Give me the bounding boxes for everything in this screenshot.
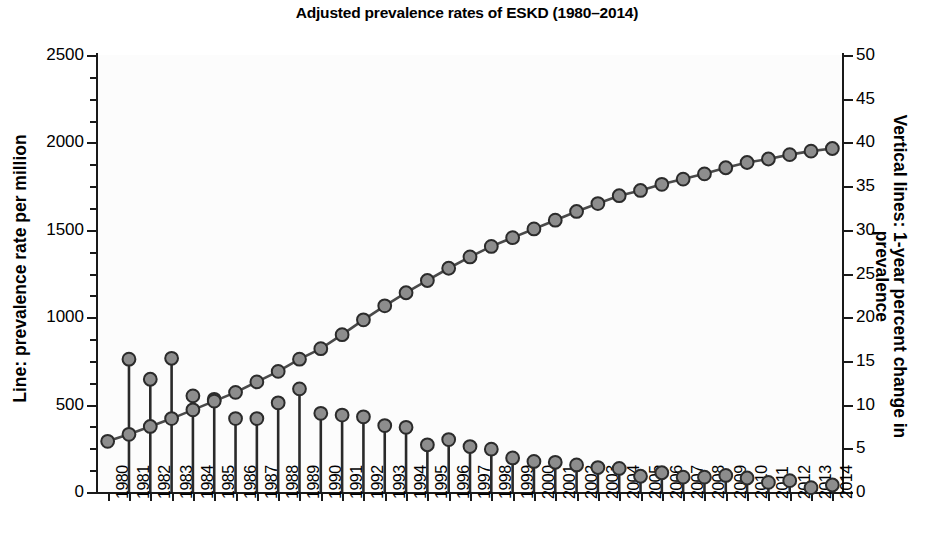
stem-marker [144, 373, 157, 386]
stem-marker [613, 462, 626, 475]
line-marker [655, 178, 668, 191]
line-marker [762, 153, 775, 166]
line-marker [591, 197, 604, 210]
stem-marker [421, 438, 434, 451]
stem-marker [634, 470, 647, 483]
stem-marker [123, 353, 136, 366]
line-marker [314, 342, 327, 355]
line-marker [698, 167, 711, 180]
stem-marker [165, 352, 178, 365]
line-marker [805, 145, 818, 158]
line-marker [336, 328, 349, 341]
line-marker [613, 189, 626, 202]
stem-marker [378, 419, 391, 432]
line-marker [400, 286, 413, 299]
stem-marker [719, 469, 732, 482]
stem-marker [677, 471, 690, 484]
stem-marker [357, 410, 370, 423]
stem-marker [314, 407, 327, 420]
stem-marker [336, 409, 349, 422]
line-marker [250, 375, 263, 388]
stem-marker [783, 474, 796, 487]
stem-marker [272, 396, 285, 409]
stem-marker [187, 389, 200, 402]
line-marker [357, 313, 370, 326]
line-marker [741, 156, 754, 169]
stem-marker [570, 459, 583, 472]
line-marker [549, 214, 562, 227]
stem-marker [485, 443, 498, 456]
stem-marker [229, 412, 242, 425]
stem-marker [741, 472, 754, 485]
stem-marker [698, 471, 711, 484]
chart-root: Adjusted prevalence rates of ESKD (1980–… [0, 0, 934, 545]
line-marker [101, 435, 114, 448]
stem-marker [528, 455, 541, 468]
line-marker [826, 142, 839, 155]
stem-marker [805, 481, 818, 494]
line-marker [378, 299, 391, 312]
stem-marker [549, 456, 562, 469]
line-marker [165, 412, 178, 425]
stem-marker [762, 476, 775, 489]
chart-data-layer [0, 0, 934, 545]
stem-marker [293, 382, 306, 395]
stem-series-group [123, 352, 839, 494]
line-marker [208, 395, 221, 408]
stem-marker [591, 461, 604, 474]
line-marker [783, 148, 796, 161]
line-marker [528, 223, 541, 236]
line-marker [144, 420, 157, 433]
line-marker [442, 262, 455, 275]
line-marker [485, 240, 498, 253]
line-marker [229, 386, 242, 399]
line-marker [570, 205, 583, 218]
stem-marker [464, 440, 477, 453]
line-marker [421, 274, 434, 287]
stem-marker [655, 466, 668, 479]
stem-marker [506, 452, 519, 465]
line-series-group [101, 142, 838, 448]
line-marker [677, 173, 690, 186]
line-marker [506, 231, 519, 244]
line-marker [464, 250, 477, 263]
stem-marker [250, 412, 263, 425]
line-marker [719, 161, 732, 174]
line-marker [634, 184, 647, 197]
line-marker [272, 365, 285, 378]
stem-marker [442, 433, 455, 446]
stem-marker [826, 479, 839, 492]
line-marker [187, 403, 200, 416]
line-marker [123, 428, 136, 441]
line-marker [293, 353, 306, 366]
stem-marker [400, 421, 413, 434]
